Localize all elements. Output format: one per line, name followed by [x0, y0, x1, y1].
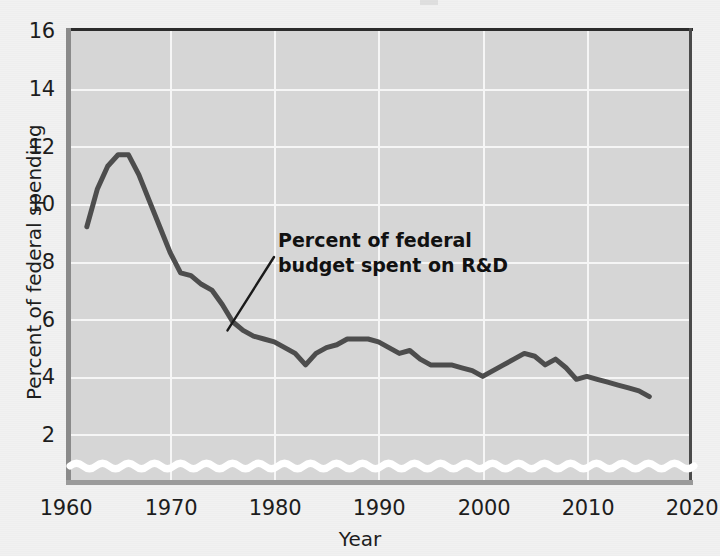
axis-break-squiggle	[70, 463, 694, 469]
y-axis-title: Percent of federal spending	[22, 124, 46, 400]
ytick-label-16: 16	[0, 19, 55, 43]
ytick-label-2: 2	[0, 423, 55, 447]
xtick-label-1970: 1970	[129, 496, 213, 520]
xtick-label-1960: 1960	[24, 496, 108, 520]
chart-figure: Percent of federal budget spent on R&D 1…	[0, 0, 720, 556]
xtick-label-1980: 1980	[233, 496, 317, 520]
annotation-line-2: budget spent on R&D	[278, 253, 508, 278]
xtick-label-2000: 2000	[442, 496, 526, 520]
xtick-label-2010: 2010	[546, 496, 630, 520]
x-axis-title: Year	[0, 527, 720, 551]
ytick-label-14: 14	[0, 77, 55, 101]
annotation-leader-line	[228, 257, 275, 330]
annotation-line-1: Percent of federal	[278, 228, 508, 253]
xtick-label-1990: 1990	[337, 496, 421, 520]
xtick-label-2020: 2020	[650, 496, 720, 520]
annotation-text: Percent of federal budget spent on R&D	[278, 228, 508, 278]
